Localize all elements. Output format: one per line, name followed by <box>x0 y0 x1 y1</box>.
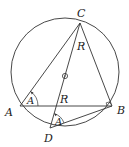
label-A: A <box>4 106 13 119</box>
label-R-upper: R <box>76 40 85 53</box>
circle-geometry-diagram: C R R A B D A A <box>0 0 129 147</box>
label-C: C <box>77 7 86 20</box>
segment-AC <box>20 23 80 106</box>
label-B: B <box>116 104 125 117</box>
center-point-dot <box>64 75 65 76</box>
label-angle-A: A <box>26 95 34 106</box>
circumcircle <box>11 18 119 126</box>
label-D: D <box>43 132 53 145</box>
label-R-lower: R <box>59 93 68 106</box>
label-angle-D: A <box>54 116 62 127</box>
segment-CB <box>80 23 112 106</box>
